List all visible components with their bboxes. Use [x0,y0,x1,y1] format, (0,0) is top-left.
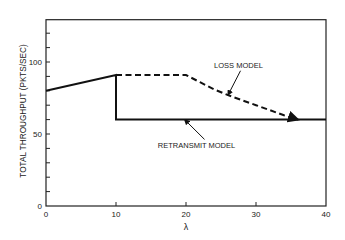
throughput-chart: 010203040 050100 LOSS MODELRETRANSMIT MO… [0,0,345,240]
annotation-label: LOSS MODEL [214,61,263,70]
annotation-arrow [228,71,241,95]
x-tick-label: 30 [252,210,261,219]
x-tick-label: 0 [44,210,49,219]
x-axis-tick-labels: 010203040 [44,210,331,219]
y-tick-label: 100 [29,58,43,67]
x-tick-label: 10 [112,210,121,219]
series-lines [46,75,326,120]
y-axis-tick-labels: 050100 [29,58,43,211]
series-retransmit-model [46,75,326,120]
x-axis-ticks [116,202,256,206]
plot-frame [46,20,326,206]
series-loss-model [116,75,298,120]
x-tick-label: 20 [182,210,191,219]
x-tick-label: 40 [322,210,331,219]
y-tick-label: 50 [33,130,42,139]
annotation-label: RETRANSMIT MODEL [158,141,235,150]
y-tick-label: 0 [38,202,43,211]
x-axis-label: λ [184,222,189,232]
y-axis-label: TOTAL THROUGHPUT (PKTS/SEC) [19,44,28,178]
annotation-arrow [185,120,205,140]
